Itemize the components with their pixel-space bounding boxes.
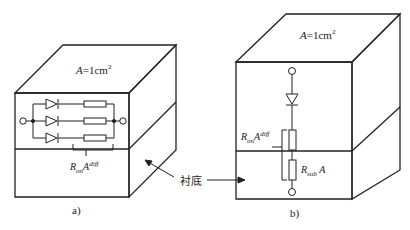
box-b-side-divider <box>352 107 400 151</box>
r-sub: sub <box>307 170 317 178</box>
r-var2: A <box>319 164 325 175</box>
box-a-front-face <box>15 93 129 197</box>
terminal-top <box>289 68 296 75</box>
caption-a: a) <box>72 204 81 216</box>
box-a-side-divider <box>129 102 176 149</box>
brace-resistors <box>73 144 113 156</box>
branch-1 <box>33 99 114 109</box>
rsub-label-b: Rsub A <box>301 164 325 178</box>
ron-label-b: RonAdiff <box>241 130 270 145</box>
diagram-canvas <box>0 0 410 230</box>
terminal-right <box>120 118 126 124</box>
branch-2 <box>33 116 114 126</box>
area-sup: 2 <box>332 28 336 36</box>
area-label-a: A=1cm2 <box>76 63 111 76</box>
bracket-b <box>282 130 287 180</box>
area-label-b: A=1cm2 <box>300 28 335 41</box>
terminal-bottom <box>289 189 296 196</box>
resistor-rsub <box>289 160 296 180</box>
area-rest: =1cm <box>307 29 332 41</box>
area-rest: =1cm <box>83 64 108 76</box>
area-var: A <box>76 64 83 76</box>
terminal-left <box>20 118 26 124</box>
resistor-ron <box>289 130 296 150</box>
r-sup: diff <box>89 160 98 168</box>
circuit-b <box>272 68 298 196</box>
diode-b <box>286 94 298 104</box>
box-b-side-face <box>352 14 400 199</box>
caption-b: b) <box>290 207 299 219</box>
r-sup: diff <box>260 130 269 138</box>
area-var: A <box>300 29 307 41</box>
resistance-label-a: RonAdiff <box>70 160 99 175</box>
circuit-a <box>20 99 126 156</box>
area-sup: 2 <box>108 63 112 71</box>
substrate-arrow-a <box>145 160 174 177</box>
substrate-arrow-b <box>207 177 245 183</box>
branch-3 <box>33 133 114 143</box>
substrate-label: 衬底 <box>180 172 202 188</box>
